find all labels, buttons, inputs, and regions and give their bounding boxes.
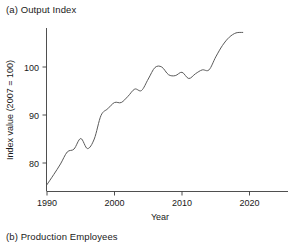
x-tick-label-2010: 2010 <box>172 198 192 208</box>
x-tick-label-2020: 2020 <box>239 198 259 208</box>
x-axis: 1990 2000 2010 2020 Year <box>37 192 288 223</box>
y-tick-label-100: 100 <box>24 63 39 73</box>
y-tick-label-80: 80 <box>29 159 39 169</box>
y-axis: 100 90 80 Index value (2007 = 100) <box>5 28 47 191</box>
y-axis-title: Index value (2007 = 100) <box>5 60 15 160</box>
x-tick-label-1990: 1990 <box>37 198 57 208</box>
x-tick-label-2000: 2000 <box>104 198 124 208</box>
output-index-plot: 100 90 80 Index value (2007 = 100) 1990 … <box>0 0 295 225</box>
figure-panel-a: (a) Output Index 100 90 80 Index value (… <box>0 0 295 249</box>
y-tick-label-90: 90 <box>29 111 39 121</box>
output-index-chart-svg: 100 90 80 Index value (2007 = 100) 1990 … <box>0 0 295 225</box>
panel-b-caption: (b) Production Employees <box>6 231 118 242</box>
x-axis-title: Year <box>151 212 169 222</box>
series-group <box>47 32 243 184</box>
output-index-line <box>47 32 243 184</box>
